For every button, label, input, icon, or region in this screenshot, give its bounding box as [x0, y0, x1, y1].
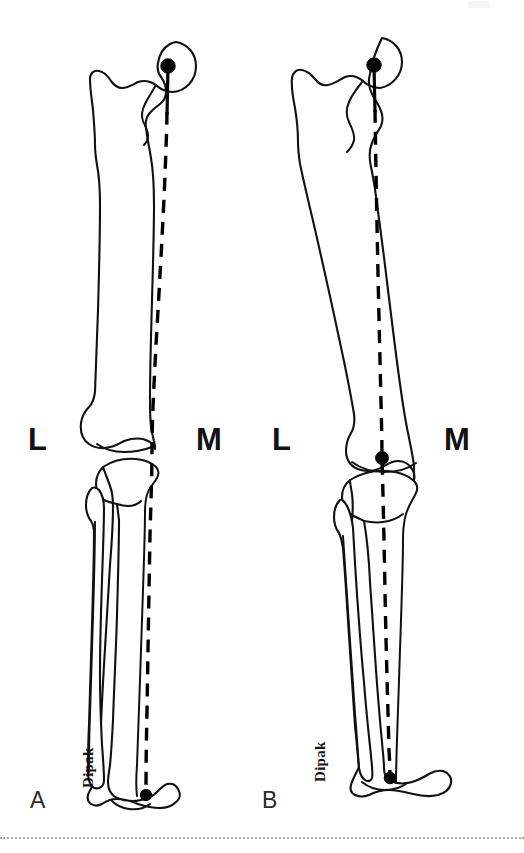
figure-root: L M A Dipak L M B Dipak: [0, 0, 524, 853]
femur-outline-b: [292, 38, 415, 480]
femur-outline-a: [81, 42, 196, 449]
panel-a-medial-label: M: [196, 424, 222, 455]
scan-artifact: [468, 1, 490, 8]
bottom-dotted-rule: [0, 837, 524, 841]
panel-a-bones: [81, 42, 196, 809]
femoral-head-centre-marker-b: [367, 58, 381, 72]
tibia-shaft-lateral-a: [117, 501, 141, 506]
panel-a-signature: Dipak: [80, 747, 97, 788]
panel-b-medial-label: M: [444, 424, 470, 455]
ankle-centre-marker-b: [384, 772, 396, 784]
panel-b-lateral-label: L: [272, 424, 291, 455]
ankle-centre-marker-a: [140, 789, 151, 800]
panel-b-bones: [292, 38, 451, 797]
panel-b-label: B: [262, 789, 277, 812]
femoral-head-centre-marker-a: [161, 59, 175, 73]
panel-b-signature: Dipak: [312, 741, 329, 782]
panel-a-lateral-label: L: [28, 424, 47, 455]
panel-a-label: A: [30, 789, 45, 812]
knee-centre-marker-b: [376, 452, 389, 465]
